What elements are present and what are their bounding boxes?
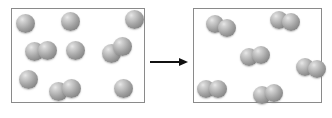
product-container	[193, 8, 322, 103]
arrow-head-icon	[179, 58, 188, 66]
reactant-container	[11, 8, 145, 103]
reaction-diagram	[0, 0, 332, 118]
arrow-shaft	[150, 61, 180, 63]
